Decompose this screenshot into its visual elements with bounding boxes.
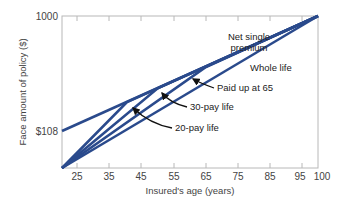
annotation-net-single-premium-line1: Net single xyxy=(228,31,270,42)
x-tick-55: 55 xyxy=(168,171,180,182)
annotation-30-pay-life: 30-pay life xyxy=(190,101,234,112)
x-tick-35: 35 xyxy=(103,171,115,182)
x-tick-labels: 25 35 45 55 65 75 85 95 100 xyxy=(71,171,330,182)
y-tick-108: $108 xyxy=(36,126,59,137)
x-tick-45: 45 xyxy=(135,171,147,182)
x-tick-100: 100 xyxy=(314,171,331,182)
annotation-paid-up-at-65: Paid up at 65 xyxy=(217,82,273,93)
line-whole-life xyxy=(62,16,318,168)
x-tick-85: 85 xyxy=(264,171,276,182)
bottom-ticks xyxy=(77,163,302,168)
arrow-20-pay-life xyxy=(133,108,172,128)
annotation-whole-life: Whole life xyxy=(250,62,292,73)
annotation-net-single-premium-line2: premium xyxy=(231,42,268,53)
annotation-20-pay-life: 20-pay life xyxy=(175,122,219,133)
chart: 1000 $108 25 35 45 55 65 75 85 95 100 In… xyxy=(0,0,347,208)
x-tick-75: 75 xyxy=(232,171,244,182)
x-tick-25: 25 xyxy=(71,171,83,182)
x-tick-65: 65 xyxy=(200,171,212,182)
y-tick-1000: 1000 xyxy=(36,11,59,22)
series-lines xyxy=(62,16,318,168)
x-axis-title: Insured's age (years) xyxy=(146,185,235,196)
x-tick-95: 95 xyxy=(294,171,306,182)
y-axis-title: Face amount of policy ($) xyxy=(17,38,28,145)
top-ticks xyxy=(77,16,302,21)
